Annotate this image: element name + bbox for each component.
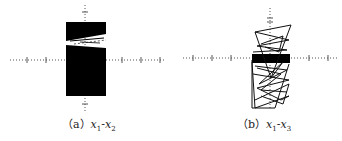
caption-b: （b）x1-x3 xyxy=(237,115,291,133)
caption-a: （a）x1-x2 xyxy=(62,115,116,133)
caption-sub2: 3 xyxy=(287,125,291,133)
dense-band xyxy=(252,54,290,63)
caption-label: （b） xyxy=(237,118,266,131)
caption-label: （a） xyxy=(62,118,91,131)
figure-panel-a: （a）x1-x2 xyxy=(0,0,171,141)
figure-panel-b: （b）x1-x3 xyxy=(171,0,342,141)
caption-sub2: 2 xyxy=(111,125,115,133)
trajectory xyxy=(252,25,291,108)
attractor-region-bottom xyxy=(66,45,106,96)
